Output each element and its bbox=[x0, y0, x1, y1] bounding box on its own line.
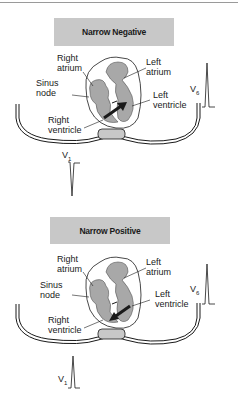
lead-v1-label: V1 bbox=[62, 150, 71, 162]
lead-v6-label: V6 bbox=[190, 84, 199, 96]
v6-waveform bbox=[202, 63, 215, 107]
v1-waveform bbox=[68, 162, 80, 196]
label-sinus-node: Sinus node bbox=[36, 78, 59, 98]
label-right-atrium: Right atrium bbox=[57, 53, 82, 73]
label-sinus-node: Sinus node bbox=[40, 280, 63, 300]
lead-v6-label: V6 bbox=[190, 284, 199, 296]
label-left-ventricle: Left ventricle bbox=[155, 289, 189, 309]
label-right-atrium: Right atrium bbox=[57, 254, 82, 274]
label-left-atrium: Left atrium bbox=[146, 57, 171, 77]
sternum-pad bbox=[98, 129, 125, 139]
panel-narrow-positive: Narrow Positive Right atrium Left atrium… bbox=[0, 198, 238, 396]
panel-title: Narrow Negative bbox=[54, 18, 174, 46]
v1-waveform bbox=[68, 356, 80, 388]
label-left-atrium: Left atrium bbox=[146, 257, 171, 277]
panel-title: Narrow Positive bbox=[50, 217, 170, 244]
v6-waveform bbox=[202, 264, 215, 304]
label-right-ventricle: Right ventricle bbox=[48, 115, 82, 135]
panel-narrow-negative: Narrow Negative Right atrium Left atrium… bbox=[0, 0, 238, 198]
label-left-ventricle: Left ventricle bbox=[153, 90, 187, 110]
lead-v1-label: V1 bbox=[58, 374, 67, 386]
label-right-ventricle: Right ventricle bbox=[48, 315, 82, 335]
sternum-pad bbox=[98, 329, 125, 339]
